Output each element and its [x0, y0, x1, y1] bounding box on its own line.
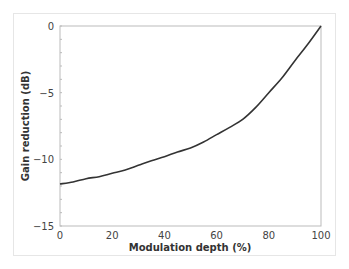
x-tick-label: 20 — [106, 230, 119, 241]
y-tick-label: −10 — [33, 154, 54, 165]
plot-border — [60, 26, 321, 226]
x-axis-title: Modulation depth (%) — [129, 242, 252, 253]
x-tick-label: 100 — [311, 230, 330, 241]
gain-reduction-line — [60, 26, 321, 184]
y-tick-label: −5 — [39, 88, 54, 99]
line-chart: 020406080100 0−5−10−15 Modulation depth … — [0, 0, 349, 269]
x-tick-label: 40 — [158, 230, 171, 241]
y-tick-label: 0 — [48, 21, 54, 32]
y-axis-title: Gain reduction (dB) — [20, 71, 31, 182]
x-tick-label: 0 — [57, 230, 63, 241]
y-tick-label: −15 — [33, 221, 54, 232]
x-tick-label: 60 — [210, 230, 223, 241]
x-tick-label: 80 — [262, 230, 275, 241]
x-axis-tick-labels: 020406080100 — [57, 230, 331, 241]
y-axis-tick-labels: 0−5−10−15 — [33, 21, 54, 232]
plot-area — [60, 26, 321, 226]
